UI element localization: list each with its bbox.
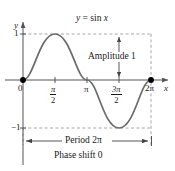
x-tick-label-pi-over-2: π 2 xyxy=(50,85,56,106)
graph-title: y = sin x xyxy=(76,14,108,24)
y-tick-label-1: 1 xyxy=(14,29,19,38)
three-pi-over-2-numerator: 3π xyxy=(111,85,122,94)
phase-shift-annotation: Phase shift 0 xyxy=(54,151,103,161)
pi-over-2-denominator: 2 xyxy=(50,96,56,105)
period-annotation: Period 2π xyxy=(65,136,102,146)
x-tick-label-pi: π xyxy=(84,85,89,94)
pi-over-2-numerator: π xyxy=(50,85,56,94)
three-pi-over-2-denominator: 2 xyxy=(111,96,122,105)
x-tick-label-3pi-over-2: 3π 2 xyxy=(111,85,122,106)
y-tick-label-minus-1: −1 xyxy=(11,123,21,132)
x-axis-label: x xyxy=(164,84,168,93)
x-tick-label-0: 0 xyxy=(18,84,23,93)
amplitude-annotation: Amplitude 1 xyxy=(88,52,136,62)
x-tick-label-2pi: 2π xyxy=(145,84,154,93)
sine-graph-figure: y = sin x y x 1 −1 0 π 2 π 3π 2 2π Ampli… xyxy=(0,0,175,171)
